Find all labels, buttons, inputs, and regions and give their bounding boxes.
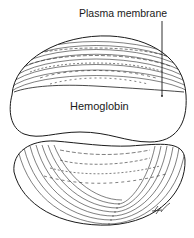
lower-cell-surface [18,145,185,224]
hemoglobin-label: Hemoglobin [70,101,129,112]
rbc-illustration [0,0,194,238]
rbc-diagram: Plasma membrane Hemoglobin [0,0,194,238]
plasma-membrane-label: Plasma membrane [79,8,167,19]
upper-cell-surface [10,42,190,93]
